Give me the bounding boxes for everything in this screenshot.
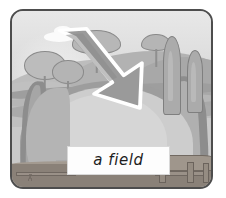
cypress-tree-short [187,50,203,113]
illustration-scene: a field [12,11,211,187]
flashcard: a field [10,9,213,189]
screenshot-root: a field [0,0,226,198]
caption-label: a field [67,146,170,175]
fence-post [187,162,194,183]
caption-text: a field [93,153,144,168]
cypress-tree-tall [163,36,181,115]
tree-trunk [156,49,157,67]
fence-post [203,163,209,182]
pointer-arrow [54,27,150,115]
artist-signature [22,174,40,181]
